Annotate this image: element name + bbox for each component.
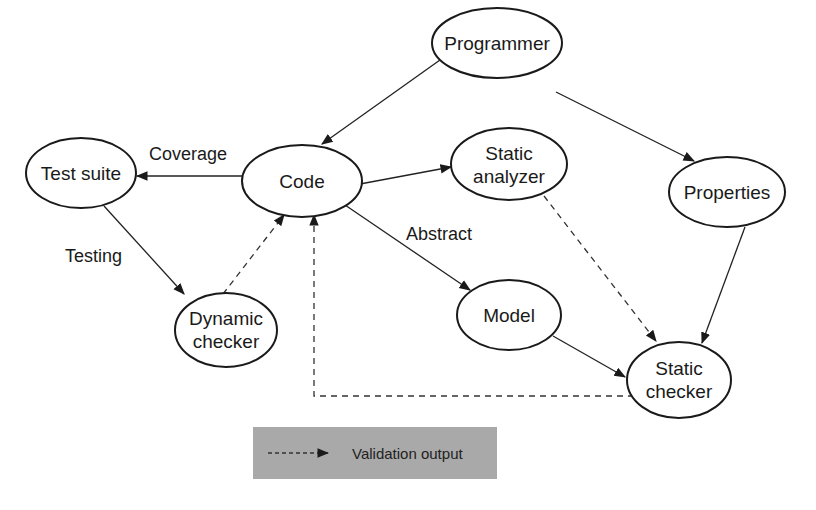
edge-label-testing: Testing xyxy=(65,246,122,266)
node-static-checker-line2: checker xyxy=(646,381,713,402)
node-static-checker: Static checker xyxy=(627,342,731,418)
edge-programmer-to-code xyxy=(322,60,440,144)
edge-properties-to-static-checker xyxy=(702,227,745,343)
node-static-checker-line1: Static xyxy=(655,358,703,379)
node-static-analyzer-line1: Static xyxy=(485,143,533,164)
node-static-analyzer: Static analyzer xyxy=(451,128,567,200)
node-programmer: Programmer xyxy=(432,8,562,78)
node-code: Code xyxy=(242,145,362,217)
node-model: Model xyxy=(457,280,561,350)
node-dynamic-checker: Dynamic checker xyxy=(175,293,277,367)
node-properties: Properties xyxy=(669,157,785,227)
node-properties-label: Properties xyxy=(684,182,771,203)
edge-programmer-to-properties xyxy=(556,92,694,161)
node-model-label: Model xyxy=(483,305,535,326)
node-dynamic-checker-line2: checker xyxy=(193,331,260,352)
node-dynamic-checker-line1: Dynamic xyxy=(189,308,263,329)
edge-dynamic-checker-to-code xyxy=(223,215,284,294)
edge-label-coverage: Coverage xyxy=(149,144,227,164)
legend: Validation output xyxy=(253,427,497,479)
edge-code-to-static-analyzer xyxy=(360,167,451,184)
edge-code-to-model xyxy=(345,205,470,290)
validation-diagram: Coverage Testing Abstract Programmer Tes… xyxy=(0,0,816,510)
edge-model-to-static-checker xyxy=(553,336,625,377)
node-static-analyzer-line2: analyzer xyxy=(473,166,545,187)
node-programmer-label: Programmer xyxy=(444,33,550,54)
node-test-suite-label: Test suite xyxy=(41,163,121,184)
node-code-label: Code xyxy=(279,171,324,192)
edge-label-abstract: Abstract xyxy=(406,224,472,244)
legend-label: Validation output xyxy=(352,445,463,462)
node-test-suite: Test suite xyxy=(26,138,136,208)
